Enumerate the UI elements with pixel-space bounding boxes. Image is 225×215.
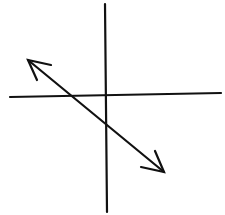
coordinate-plane bbox=[0, 0, 225, 215]
y-axis bbox=[105, 4, 107, 212]
diagram-canvas bbox=[0, 0, 225, 215]
x-axis bbox=[10, 93, 221, 97]
graphed-line bbox=[28, 60, 164, 172]
